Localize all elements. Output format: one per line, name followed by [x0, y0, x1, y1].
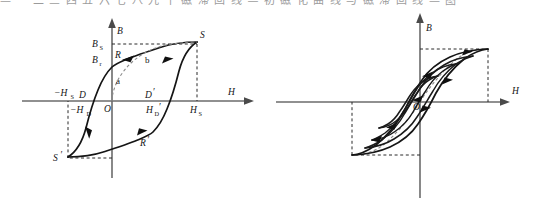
- ascending-branch-curve: [68, 42, 197, 157]
- label-d-prime-mark: ′: [153, 87, 156, 97]
- label-br-base: B: [92, 55, 98, 65]
- arrow-loop-3-lower-right: [442, 78, 453, 85]
- label-hs-positive: H S: [189, 105, 203, 117]
- h-axis-group: [22, 97, 254, 105]
- left-panel-svg: B H O B S B r H S −H S: [0, 0, 276, 205]
- initial-magnetization-curve-right-lower: [352, 102, 420, 155]
- label-neg-hs-sub: S: [71, 93, 75, 100]
- figure-root: — 一 二 三 四 五 六 七 八 九 十 磁 滞 回 线 — 初 磁 化 曲 …: [0, 0, 552, 205]
- descending-branch-curve: [68, 42, 197, 157]
- label-r: R: [114, 50, 121, 60]
- label-neg-hd: −H D: [70, 105, 92, 117]
- direction-arrows: [85, 56, 174, 139]
- label-neg-hd-sub: D: [87, 110, 92, 117]
- left-panel-major-loop: B H O B S B r H S −H S: [0, 0, 276, 205]
- label-bs-sub: S: [100, 44, 104, 51]
- label-h-axis: H: [227, 87, 236, 97]
- label-hs-negative: −H S: [54, 88, 75, 100]
- label-neg-hs-base: −H: [54, 88, 68, 98]
- label-b-point: b: [145, 55, 150, 65]
- label-h-axis-right: H: [511, 86, 520, 96]
- right-panel-nested-loops: B H O: [276, 0, 552, 205]
- b-axis-arrowhead-right: [416, 13, 424, 23]
- b-axis-arrowhead: [108, 18, 116, 28]
- label-hd-prime-mark: ′: [159, 102, 162, 112]
- h-axis-arrowhead: [244, 97, 254, 105]
- label-s: S: [200, 30, 205, 40]
- arrow-descending-lower: [85, 127, 92, 139]
- label-origin: O: [104, 104, 111, 114]
- label-origin-right: O: [413, 102, 420, 112]
- label-hs-sub: S: [199, 110, 203, 117]
- label-a: a: [116, 76, 120, 86]
- label-d: D: [78, 90, 86, 100]
- arrow-ascending-upper: [162, 57, 174, 64]
- arrow-ascending-mid: [137, 128, 148, 135]
- label-neg-hd-base: −H: [70, 105, 84, 115]
- label-hd-prime: H D ′: [145, 102, 162, 117]
- label-b-axis: B: [117, 26, 123, 36]
- label-r-prime-base: R: [139, 138, 146, 148]
- h-axis-group-right: [276, 98, 510, 106]
- label-hs-base: H: [189, 105, 198, 115]
- label-d-prime-base: D: [144, 90, 152, 100]
- label-br-sub: r: [100, 60, 103, 67]
- label-s-prime-mark: ′: [60, 150, 63, 160]
- label-br: B r: [92, 55, 103, 67]
- label-bs-base: B: [92, 39, 98, 49]
- label-s-prime-base: S: [53, 153, 58, 163]
- label-b-axis-right: B: [426, 23, 432, 33]
- label-d-prime: D ′: [144, 87, 156, 101]
- right-panel-svg: B H O: [276, 0, 552, 205]
- label-hd-prime-base: H: [145, 105, 154, 115]
- label-r-prime-mark: ′: [147, 135, 150, 145]
- label-s-prime: S ′: [53, 150, 63, 164]
- label-bs: B S: [92, 39, 104, 51]
- h-axis-arrowhead-right: [500, 98, 510, 106]
- b-axis-group: [108, 18, 116, 178]
